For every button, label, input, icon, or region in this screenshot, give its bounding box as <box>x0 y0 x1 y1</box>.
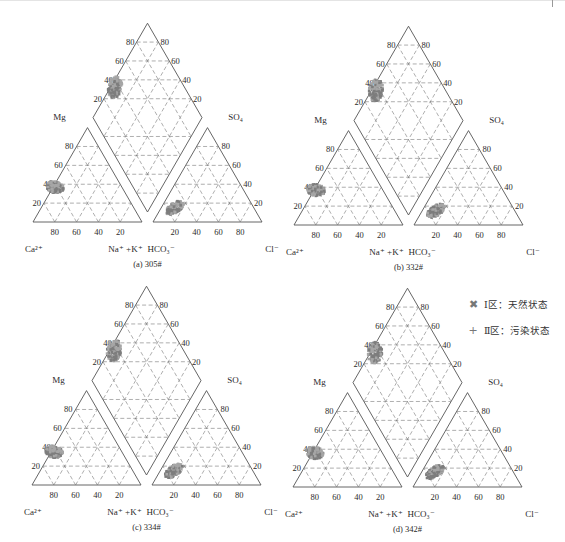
tick-label: 40 <box>192 227 201 237</box>
legend-label-polluted: Ⅱ区：污染状态 <box>484 323 550 337</box>
label-ca: Ca²⁺ <box>285 509 303 519</box>
tick-label: 20 <box>432 230 441 240</box>
tick-label: 20 <box>32 198 41 208</box>
tick-label: 60 <box>214 227 223 237</box>
tick-label: 80 <box>482 144 491 154</box>
diamond-plot: 8080606040402020 <box>92 286 201 475</box>
tick-label: 60 <box>71 490 80 500</box>
tick-label: 40 <box>242 442 251 452</box>
label-mg: Mg <box>53 112 66 122</box>
label-so4: SO₄ <box>489 115 504 125</box>
sample-point-cluster <box>166 200 185 216</box>
tick-label: 60 <box>493 163 502 173</box>
label-cl: Cl⁻ <box>526 247 540 257</box>
label-ca: Ca²⁺ <box>24 507 42 517</box>
label-mg: Mg <box>52 375 65 385</box>
label-hco3: HCO₃⁻ <box>408 247 435 257</box>
label-na-k: Na⁺ +K⁺ <box>107 507 141 517</box>
tick-label: 40 <box>354 492 363 502</box>
sample-point-cluster <box>306 183 325 197</box>
piper-panel-b: 8060402020406080204060802040608080806060… <box>286 26 540 272</box>
tick-label: 40 <box>453 230 462 240</box>
tick-label: 20 <box>115 490 124 500</box>
tick-label: 40 <box>93 490 102 500</box>
diamond-plot: 8080606040402020 <box>93 23 202 212</box>
sample-point-cluster <box>46 180 65 194</box>
tick-label: 80 <box>220 404 229 414</box>
label-na-k: Na⁺ +K⁺ <box>108 244 142 254</box>
label-so4: SO₄ <box>488 377 503 387</box>
panel-caption: (d) 342# <box>393 524 423 534</box>
tick-label: 20 <box>93 94 102 104</box>
tick-label: 20 <box>170 490 179 500</box>
tick-label: 40 <box>442 340 451 350</box>
diamond-plot: 8080606040402020 <box>354 26 463 215</box>
tick-label: 20 <box>31 461 40 471</box>
tick-label: 20 <box>354 97 363 107</box>
tick-label: 20 <box>193 94 202 104</box>
tick-label: 80 <box>51 227 60 237</box>
tick-label: 80 <box>312 230 321 240</box>
sample-point-cluster <box>425 464 445 480</box>
tick-label: 20 <box>453 359 462 369</box>
tick-label: 40 <box>504 182 513 192</box>
tick-label: 20 <box>293 201 302 211</box>
legend-label-natural: Ⅰ区：天然状态 <box>484 297 548 311</box>
tick-label: 20 <box>514 463 523 473</box>
tick-label: 40 <box>182 75 191 85</box>
tick-label: 60 <box>432 59 441 69</box>
tick-label: 80 <box>159 300 168 310</box>
tick-label: 80 <box>64 404 73 414</box>
label-mg: Mg <box>313 377 326 387</box>
label-ca: Ca²⁺ <box>286 247 304 257</box>
tick-label: 80 <box>126 37 135 47</box>
anion-triangle: 2040608020406080 <box>413 393 523 502</box>
piper-panel-a: 8060402020406080204060802040608080806060… <box>25 23 279 269</box>
tick-label: 80 <box>481 406 490 416</box>
tick-label: 80 <box>311 492 320 502</box>
tick-label: 80 <box>65 141 74 151</box>
tick-label: 60 <box>54 160 63 170</box>
diamond-plot: 8080606040402020 <box>353 288 462 477</box>
piper-diagrams-figure: 8060402020406080204060802040608080806060… <box>0 0 565 542</box>
panel-caption: (c) 334# <box>132 522 161 532</box>
tick-label: 80 <box>160 37 169 47</box>
tick-label: 80 <box>420 302 429 312</box>
tick-label: 20 <box>353 359 362 369</box>
label-na-k: Na⁺ +K⁺ <box>368 509 402 519</box>
tick-label: 40 <box>355 230 364 240</box>
tick-label: 80 <box>496 492 505 502</box>
label-hco3: HCO₃⁻ <box>146 507 173 517</box>
tick-label: 60 <box>431 321 440 331</box>
tick-label: 60 <box>315 163 324 173</box>
tick-label: 60 <box>114 319 123 329</box>
label-hco3: HCO₃⁻ <box>407 509 434 519</box>
tick-label: 20 <box>253 461 262 471</box>
tick-label: 80 <box>50 490 59 500</box>
tick-label: 40 <box>94 227 103 237</box>
x-marker-icon: ✖ <box>466 298 480 311</box>
label-ca: Ca²⁺ <box>25 244 43 254</box>
legend: ✖ Ⅰ区：天然状态 + Ⅱ区：污染状态 <box>466 297 565 349</box>
tick-label: 20 <box>454 97 463 107</box>
tick-label: 20 <box>192 357 201 367</box>
sample-point-cluster <box>305 446 324 460</box>
tick-label: 40 <box>443 78 452 88</box>
tick-label: 60 <box>314 425 323 435</box>
label-so4: SO₄ <box>228 112 243 122</box>
tick-label: 60 <box>53 423 62 433</box>
tick-label: 60 <box>232 160 241 170</box>
plus-marker-icon: + <box>466 324 480 337</box>
panel-caption: (b) 332# <box>394 262 424 272</box>
tick-label: 20 <box>92 357 101 367</box>
tick-label: 60 <box>375 321 384 331</box>
label-so4: SO₄ <box>227 375 242 385</box>
tick-label: 60 <box>492 425 501 435</box>
panel-caption: (a) 305# <box>133 259 162 269</box>
tick-label: 60 <box>72 227 81 237</box>
tick-label: 40 <box>243 179 252 189</box>
tick-label: 80 <box>421 40 430 50</box>
tick-label: 20 <box>171 227 180 237</box>
sample-point-cluster <box>44 445 64 459</box>
tick-label: 40 <box>452 492 461 502</box>
